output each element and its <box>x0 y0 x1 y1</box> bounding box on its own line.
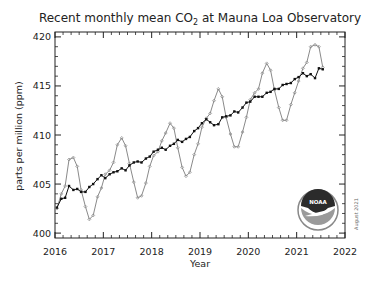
data-point <box>124 169 126 171</box>
x-axis-label: Year <box>189 258 210 269</box>
data-point <box>64 197 66 199</box>
data-point <box>285 83 287 85</box>
data-point <box>193 130 195 132</box>
data-point <box>185 138 187 140</box>
x-tick-label: 2016 <box>43 246 67 257</box>
y-tick-label: 410 <box>33 130 51 141</box>
data-point <box>197 127 199 129</box>
data-point <box>100 174 102 176</box>
x-tick-label: 2021 <box>285 246 309 257</box>
data-point <box>209 121 211 123</box>
x-tick-label: 2018 <box>140 246 164 257</box>
title-pre: Recent monthly mean CO <box>39 11 193 25</box>
y-tick-labels: 400405410415420 <box>33 31 51 238</box>
data-point <box>273 88 275 90</box>
data-point <box>261 96 263 98</box>
data-point <box>121 167 123 169</box>
data-point <box>72 189 74 191</box>
data-point <box>116 170 118 172</box>
data-point <box>88 186 90 188</box>
data-point <box>302 72 304 74</box>
data-point <box>76 188 78 190</box>
data-point <box>245 101 247 103</box>
data-point <box>294 78 296 80</box>
y-tick-label: 415 <box>33 80 51 91</box>
y-axis-label: parts per million (ppm) <box>13 81 24 191</box>
x-tick-labels: 2016201720182019202020212022 <box>43 246 357 257</box>
data-point <box>181 141 183 143</box>
date-annotation: August 2021 <box>353 198 360 230</box>
data-point <box>80 191 82 193</box>
data-point <box>257 96 259 98</box>
title-post: at Mauna Loa Observatory <box>198 11 361 25</box>
data-point <box>84 191 86 193</box>
x-tick-label: 2020 <box>236 246 260 257</box>
co2-chart: Recent monthly mean CO2 at Mauna Loa Obs… <box>0 0 375 281</box>
data-point <box>104 177 106 179</box>
y-tick-label: 420 <box>33 31 51 42</box>
data-point <box>96 178 98 180</box>
data-point <box>108 173 110 175</box>
data-point <box>253 96 255 98</box>
data-point <box>297 76 299 78</box>
data-point <box>221 116 223 118</box>
x-tick-label: 2022 <box>333 246 357 257</box>
data-point <box>201 122 203 124</box>
data-point <box>149 155 151 157</box>
data-point <box>173 143 175 145</box>
data-point <box>140 161 142 163</box>
x-tick-label: 2019 <box>188 246 212 257</box>
data-point <box>278 88 280 90</box>
data-point <box>266 92 268 94</box>
data-point <box>269 91 271 93</box>
data-point <box>241 106 243 108</box>
data-point <box>290 82 292 84</box>
data-point <box>309 73 311 75</box>
y-tick-label: 400 <box>33 228 51 239</box>
series-monthly-mean <box>55 43 324 221</box>
data-point <box>249 100 251 102</box>
data-point <box>189 136 191 138</box>
data-point <box>136 160 138 162</box>
series-seasonally-corrected <box>56 67 324 209</box>
data-point <box>157 149 159 151</box>
data-point <box>92 183 94 185</box>
data-point <box>314 77 316 79</box>
data-point <box>128 164 130 166</box>
data-point <box>318 67 320 69</box>
y-tick-label: 405 <box>33 179 51 190</box>
data-point <box>306 75 308 77</box>
data-point <box>229 114 231 116</box>
chart-title: Recent monthly mean CO2 at Mauna Loa Obs… <box>39 11 361 27</box>
data-point <box>133 161 135 163</box>
data-point <box>233 110 235 112</box>
noaa-logo-icon: NOAA <box>298 189 338 230</box>
logo-text: NOAA <box>309 199 327 205</box>
data-point <box>225 115 227 117</box>
data-point <box>161 147 163 149</box>
data-point <box>164 149 166 151</box>
data-point <box>56 206 58 208</box>
data-point <box>112 171 114 173</box>
data-point <box>213 124 215 126</box>
data-point <box>205 118 207 120</box>
data-point <box>217 123 219 125</box>
data-point <box>322 68 324 70</box>
data-point <box>152 150 154 152</box>
data-point <box>60 198 62 200</box>
data-point <box>145 157 147 159</box>
data-point <box>281 84 283 86</box>
data-point <box>169 145 171 147</box>
data-point <box>237 111 239 113</box>
x-tick-label: 2017 <box>91 246 115 257</box>
data-point <box>177 139 179 141</box>
data-point <box>68 185 70 187</box>
